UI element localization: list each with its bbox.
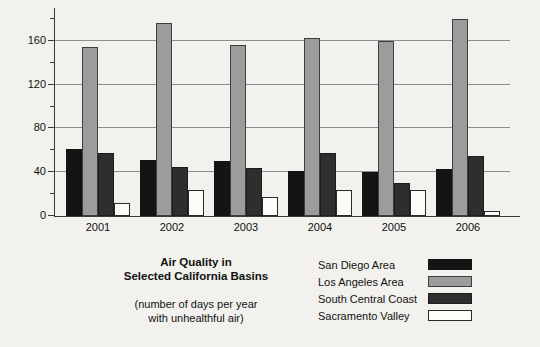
y-tick-minor-100 (50, 106, 54, 107)
y-tick-major-0 (48, 215, 54, 216)
y-tick-minor-180 (50, 18, 54, 19)
bar-group-2005 (362, 8, 426, 216)
bar (362, 172, 378, 216)
bar (484, 211, 500, 216)
y-axis-label-80: 80 (34, 122, 46, 133)
bar (66, 149, 82, 216)
bar (288, 171, 304, 216)
bar (304, 38, 320, 216)
legend-label: South Central Coast (318, 293, 428, 305)
bar-group-2003 (214, 8, 278, 216)
y-tick-major-80 (48, 127, 54, 128)
bar (82, 47, 98, 216)
y-tick-major-160 (48, 40, 54, 41)
y-tick-minor-20 (50, 193, 54, 194)
bar (436, 169, 452, 216)
y-tick-minor-60 (50, 149, 54, 150)
bar (156, 23, 172, 216)
legend-swatch (428, 259, 472, 270)
bar-group-2006 (436, 8, 500, 216)
plot-area: 04080120160 200120022003200420052006 (54, 8, 520, 217)
legend-item: San Diego Area (318, 256, 498, 273)
legend-item: South Central Coast (318, 290, 498, 307)
y-axis-tick-labels: 04080120160 (0, 8, 46, 217)
chart-subtitle-line-1: (number of days per year (96, 297, 296, 311)
x-axis-label-2001: 2001 (56, 221, 140, 233)
chart-title-line-2: Selected California Basins (96, 269, 296, 283)
legend-label: San Diego Area (318, 259, 428, 271)
x-axis-label-2006: 2006 (426, 221, 510, 233)
legend-swatch (428, 276, 472, 287)
chart-title: Air Quality in Selected California Basin… (96, 255, 296, 283)
x-axis-label-2004: 2004 (278, 221, 362, 233)
legend-label: Los Angeles Area (318, 276, 428, 288)
chart-title-line-1: Air Quality in (96, 255, 296, 269)
bar (230, 45, 246, 216)
bar (98, 153, 114, 216)
chart-subtitle-line-2: with unhealthful air) (96, 311, 296, 325)
bar (188, 190, 204, 216)
chart-legend: San Diego AreaLos Angeles AreaSouth Cent… (318, 256, 498, 324)
y-tick-major-40 (48, 171, 54, 172)
y-axis-label-160: 160 (28, 35, 46, 46)
bar-group-2001 (66, 8, 130, 216)
bar (452, 19, 468, 216)
bar-group-2004 (288, 8, 352, 216)
x-axis-label-2002: 2002 (130, 221, 214, 233)
bar-group-2002 (140, 8, 204, 216)
legend-label: Sacramento Valley (318, 310, 428, 322)
x-axis-line (54, 216, 520, 217)
bar-chart-figure: 04080120160 200120022003200420052006 Air… (0, 0, 540, 347)
bar (320, 153, 336, 216)
y-tick-minor-140 (50, 62, 54, 63)
bar (140, 160, 156, 216)
y-axis-label-0: 0 (40, 210, 46, 221)
y-axis-label-120: 120 (28, 79, 46, 90)
x-axis-label-2005: 2005 (352, 221, 436, 233)
bar (468, 156, 484, 216)
legend-item: Los Angeles Area (318, 273, 498, 290)
chart-title-block: Air Quality in Selected California Basin… (96, 255, 296, 325)
legend-item: Sacramento Valley (318, 307, 498, 324)
x-axis-label-2003: 2003 (204, 221, 288, 233)
bar (394, 183, 410, 216)
bar (378, 41, 394, 216)
bar (246, 168, 262, 216)
y-tick-major-120 (48, 84, 54, 85)
legend-swatch (428, 310, 472, 321)
bar (172, 167, 188, 216)
bar (114, 203, 130, 216)
bar (336, 190, 352, 216)
bar (262, 197, 278, 216)
legend-swatch (428, 293, 472, 304)
chart-subtitle: (number of days per year with unhealthfu… (96, 297, 296, 325)
y-axis-label-40: 40 (34, 166, 46, 177)
bar (410, 190, 426, 216)
bar (214, 161, 230, 216)
